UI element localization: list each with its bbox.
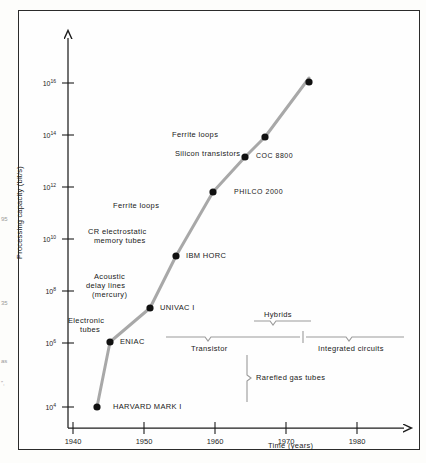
margin-mark-1: 95 (1, 216, 8, 222)
point-label-univac-i: UNIVAC I (160, 303, 195, 312)
point-label-eniac: ENIAC (120, 337, 145, 346)
x-tick-label-1980: 1980 (337, 437, 377, 446)
point-label-coc-8800: COC 8800 (256, 152, 293, 159)
x-tick-label-1940: 1940 (53, 437, 93, 446)
chart-page: 95 35 as ”, (0, 0, 426, 463)
y-tick-label-8: 108 (26, 286, 56, 295)
bracket-label-integrated-circuits: Integrated circuits (318, 344, 384, 353)
note-silicon-transistors: Silicon transistors (175, 149, 240, 159)
x-tick-label-1950: 1950 (124, 437, 164, 446)
margin-mark-4: ”, (1, 380, 5, 386)
note-tubes: tubes (80, 325, 100, 335)
y-tick-label-6: 106 (26, 338, 56, 347)
bracket-label-transistor: Transistor (191, 344, 228, 353)
point-label-ibm-horc: IBM HORC (186, 251, 226, 260)
note-memory-tubes: memory tubes (94, 236, 146, 246)
y-tick-label-12: 1012 (26, 182, 56, 191)
margin-mark-3: as (1, 358, 7, 364)
y-tick-label-16: 1016 (26, 78, 56, 87)
y-tick-label-14: 1014 (26, 130, 56, 139)
bracket-label-rarefied-gas-tubes: Rarefied gas tubes (256, 373, 325, 382)
x-tick-label-1960: 1960 (195, 437, 235, 446)
note-ferrite-loops-lower: Ferrite loops (113, 201, 159, 211)
figure-frame (18, 10, 420, 450)
point-label-philco-2000: PHILCO 2000 (234, 188, 283, 195)
margin-mark-2: 35 (1, 300, 8, 306)
note-mercury: (mercury) (92, 290, 127, 300)
bracket-label-hybrids: Hybrids (264, 310, 292, 319)
y-axis-title: Processing capacity (bit/s) (15, 158, 24, 268)
y-tick-label-10: 1010 (26, 234, 56, 243)
y-tick-label-4: 104 (26, 402, 56, 411)
note-ferrite-loops-upper: Ferrite loops (172, 130, 218, 140)
point-label-harvard-mark-i: HARVARD MARK I (113, 402, 182, 411)
x-tick-label-1970: 1970 (266, 437, 306, 446)
